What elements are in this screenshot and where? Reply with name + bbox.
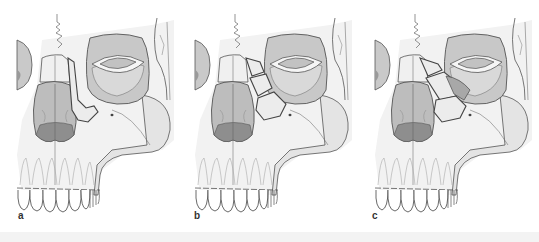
- panel-b: b: [180, 0, 360, 230]
- fracture-illustration-figure: a b c: [0, 0, 539, 242]
- panel-a: a: [2, 0, 182, 230]
- skull-illustration-b: [180, 0, 360, 230]
- skull-illustration-a: [2, 0, 182, 230]
- panel-label-c: c: [372, 210, 378, 221]
- panel-c: c: [360, 0, 539, 230]
- panel-label-b: b: [194, 210, 200, 221]
- footer-band: [0, 232, 539, 242]
- skull-illustration-c: [360, 0, 539, 230]
- panel-label-a: a: [18, 210, 24, 221]
